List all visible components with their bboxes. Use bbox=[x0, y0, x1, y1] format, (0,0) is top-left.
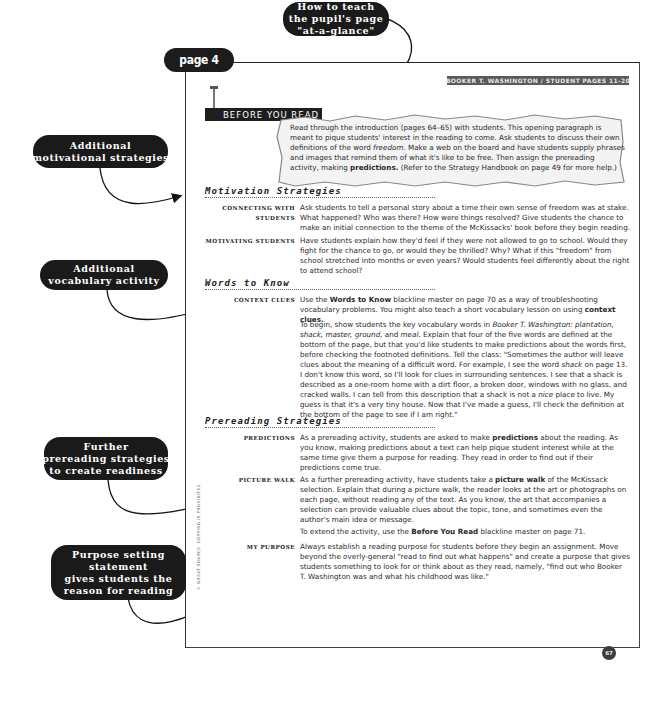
callout-prereading: Further prereading strategies to create … bbox=[44, 437, 168, 480]
text-picture-walk: As a further prereading activity, have s… bbox=[300, 475, 630, 525]
text-predictions: As a prereading activity, students are a… bbox=[300, 433, 630, 473]
term-predictions: Predictions bbox=[205, 433, 295, 443]
term-context-clues: Context clues bbox=[205, 295, 295, 305]
text-motivating-students: Have students explain how they'd feel if… bbox=[300, 236, 630, 276]
heading-words-to-know: Words to Know bbox=[205, 278, 435, 290]
term-picture-walk: Picture walk bbox=[205, 475, 295, 485]
callout-purpose: Purpose setting statement gives students… bbox=[51, 545, 186, 600]
intro-paragraph: Read through the introduction (pages 64–… bbox=[290, 123, 625, 173]
text-context-clues-example: To begin, show students the key vocabula… bbox=[300, 320, 630, 420]
page-number-badge: 67 bbox=[602, 646, 616, 660]
term-my-purpose: My purpose bbox=[205, 542, 295, 552]
callout-motivational: Additional motivational strategies bbox=[33, 135, 168, 168]
heading-motivation-strategies: Motivation Strategies bbox=[205, 186, 435, 198]
heading-prereading-strategies: Prereading Strategies bbox=[205, 416, 435, 428]
callout-at-a-glance: How to teach the pupil's page "at-a-glan… bbox=[283, 2, 389, 36]
term-connecting-with-students: Connecting with students bbox=[205, 203, 295, 223]
copyright-notice: © GREAT SOURCE. COPYING IS PROHIBITED. bbox=[196, 482, 201, 590]
text-extend-activity: To extend the activity, use the Before Y… bbox=[300, 527, 630, 537]
term-motivating-students: Motivating students bbox=[205, 236, 295, 246]
running-header: BOOKER T. WASHINGTON / STUDENT PAGES 11-… bbox=[447, 76, 629, 85]
text-my-purpose: Always establish a reading purpose for s… bbox=[300, 542, 630, 582]
text-connecting-with-students: Ask students to tell a personal story ab… bbox=[300, 203, 630, 233]
pushpin-icon bbox=[210, 86, 218, 108]
callout-vocabulary: Additional vocabulary activity bbox=[40, 260, 168, 290]
page-tab: page 4 bbox=[164, 48, 234, 72]
